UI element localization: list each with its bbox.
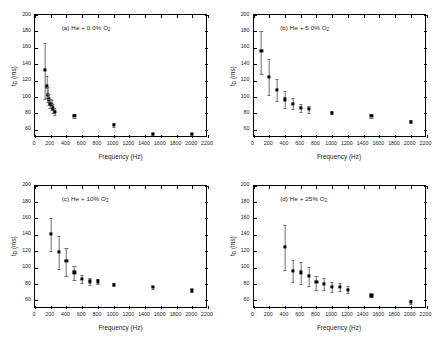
x-tick-top: [269, 15, 270, 18]
error-bar-cap: [409, 304, 412, 305]
y-tick-right: [424, 113, 427, 114]
x-tick: [145, 306, 146, 309]
y-tick-right: [424, 300, 427, 301]
x-tick-top: [411, 186, 412, 189]
data-point: [338, 286, 341, 289]
error-bar-cap: [315, 276, 318, 277]
error-bar-cap: [291, 109, 294, 110]
x-tick-top: [145, 186, 146, 189]
error-bar-cap: [283, 108, 286, 109]
y-tick-right: [424, 235, 427, 236]
error-bar-cap: [299, 104, 302, 105]
x-tick: [254, 135, 255, 138]
x-tick: [411, 135, 412, 138]
y-tick-right: [424, 15, 427, 16]
x-tick: [269, 306, 270, 309]
x-axis-title: Frequency (Hz): [253, 153, 426, 160]
error-bar-cap: [291, 282, 294, 283]
y-tick-right: [424, 186, 427, 187]
error-bar-cap: [307, 113, 310, 114]
y-tick: [254, 284, 257, 285]
y-tick: [35, 97, 38, 98]
data-point: [191, 132, 194, 135]
y-tick-label: 160: [13, 214, 31, 220]
error-bar-cap: [370, 118, 373, 119]
y-tick-right: [205, 130, 208, 131]
panel-title-d: (d) He + 25% O2: [280, 195, 327, 203]
plot-area-b: [253, 14, 426, 137]
x-tick: [82, 306, 83, 309]
y-tick-right: [205, 64, 208, 65]
y-tick-label: 160: [13, 43, 31, 49]
error-bar-cap: [57, 236, 60, 237]
y-tick-label: 200: [232, 181, 250, 187]
x-tick: [427, 135, 428, 138]
x-tick: [316, 306, 317, 309]
error-bar-cap: [299, 262, 302, 263]
x-tick: [285, 135, 286, 138]
y-tick: [254, 218, 257, 219]
y-axis-title: tD (ms): [10, 54, 18, 98]
data-point: [151, 286, 154, 289]
data-point: [283, 245, 286, 248]
panel-title-c: (c) He + 10% O2: [62, 195, 109, 203]
x-tick: [395, 306, 396, 309]
x-tick: [364, 306, 365, 309]
y-tick: [254, 31, 257, 32]
error-bar-cap: [307, 286, 310, 287]
x-tick: [301, 135, 302, 138]
data-point: [283, 98, 286, 101]
x-tick-top: [208, 186, 209, 189]
data-point: [53, 110, 56, 113]
y-tick-right: [205, 268, 208, 269]
y-tick-right: [205, 218, 208, 219]
y-tick-right: [205, 81, 208, 82]
x-tick-top: [379, 186, 380, 189]
y-tick: [35, 186, 38, 187]
error-bar-cap: [53, 115, 56, 116]
y-tick: [35, 268, 38, 269]
data-point: [49, 232, 52, 235]
y-tick-right: [424, 251, 427, 252]
x-tick-label: 2200: [193, 140, 221, 146]
data-point: [65, 259, 68, 262]
x-tick-label: 2200: [193, 311, 221, 317]
y-tick: [35, 130, 38, 131]
x-tick: [285, 306, 286, 309]
panel-a: 0200400600800100012001400160018002000220…: [0, 0, 219, 171]
plot-area-a: [34, 14, 207, 137]
y-tick: [254, 15, 257, 16]
y-tick-right: [205, 284, 208, 285]
y-tick: [35, 284, 38, 285]
y-tick: [35, 113, 38, 114]
y-tick-label: 200: [13, 11, 31, 17]
x-tick-top: [379, 15, 380, 18]
error-bar-cap: [96, 284, 99, 285]
y-axis-title: tD (ms): [228, 224, 236, 268]
data-point: [112, 283, 115, 286]
x-tick: [66, 135, 67, 138]
error-bar-cap: [49, 251, 52, 252]
y-tick-right: [205, 48, 208, 49]
data-point: [260, 49, 263, 52]
x-tick: [161, 306, 162, 309]
x-tick: [332, 135, 333, 138]
x-tick: [51, 306, 52, 309]
x-tick: [129, 306, 130, 309]
y-tick-right: [424, 81, 427, 82]
y-tick-right: [424, 64, 427, 65]
y-tick-label: 160: [232, 214, 250, 220]
y-tick-label: 180: [232, 198, 250, 204]
x-tick-top: [348, 186, 349, 189]
x-tick: [98, 135, 99, 138]
y-tick-right: [424, 130, 427, 131]
x-tick: [411, 306, 412, 309]
error-bar-cap: [409, 123, 412, 124]
error-bar-cap: [315, 290, 318, 291]
x-tick-top: [161, 186, 162, 189]
x-tick-top: [66, 186, 67, 189]
error-bar-cap: [307, 267, 310, 268]
error-bar-cap: [331, 292, 334, 293]
x-tick: [395, 135, 396, 138]
error-bar-cap: [283, 225, 286, 226]
